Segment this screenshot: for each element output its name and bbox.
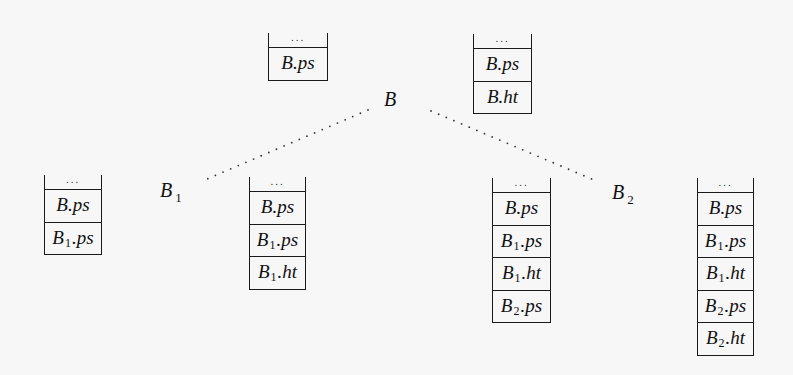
cell-field: .ht xyxy=(278,261,298,282)
edge-b-to-b2 xyxy=(431,111,594,180)
stack-b1-entry: ...B.psB1.ps xyxy=(44,175,102,255)
cell-base: B xyxy=(56,194,68,215)
stack-root-exit: ...B.psB.ht xyxy=(473,34,532,114)
stack-cell: B1.ht xyxy=(492,258,551,291)
cell-base: B xyxy=(705,230,717,251)
cell-field: .ps xyxy=(724,295,746,316)
cell-field: .ht xyxy=(726,327,746,348)
cell-subscript: 1 xyxy=(513,239,519,253)
node-label-b: B xyxy=(384,89,399,117)
cell-subscript: 1 xyxy=(65,236,71,250)
cell-base: B xyxy=(258,261,270,282)
cell-field: .ps xyxy=(68,194,90,215)
stack-b2-entry: ...B.psB1.psB1.htB2.ps xyxy=(492,178,551,323)
stack-cell: B1.ps xyxy=(249,225,306,258)
stack-open-top: ... xyxy=(249,177,306,192)
cell-subscript: 1 xyxy=(271,270,277,284)
cell-base: B xyxy=(706,262,718,283)
cell-base: B xyxy=(706,327,718,348)
stack-cell: B1.ht xyxy=(249,257,306,290)
cell-base: B xyxy=(257,229,269,250)
cell-base: B xyxy=(281,52,293,73)
stack-cell: B2.ht xyxy=(697,323,754,356)
stack-b2-exit: ...B.psB1.psB1.htB2.psB2.ht xyxy=(697,178,754,356)
cell-subscript: 2 xyxy=(719,336,725,350)
node-label-b2: B2 xyxy=(612,182,634,210)
cell-subscript: 2 xyxy=(717,304,723,318)
cell-base: B xyxy=(487,86,499,107)
stack-cell: B1.ps xyxy=(492,226,551,259)
cell-field: .ht xyxy=(726,262,746,283)
stack-root-entry: ...B.ps xyxy=(268,33,328,81)
stack-cell: B2.ps xyxy=(697,291,754,324)
cell-field: .ps xyxy=(520,295,542,316)
cell-field: .ps xyxy=(720,197,742,218)
cell-base: B xyxy=(705,295,717,316)
cell-base: B xyxy=(486,53,498,74)
stack-open-top: ... xyxy=(268,33,328,48)
stack-cell: B1.ps xyxy=(44,223,102,256)
stack-open-top: ... xyxy=(492,178,551,193)
cell-field: .ps xyxy=(497,53,519,74)
cell-base: B xyxy=(501,295,513,316)
cell-base: B xyxy=(505,197,517,218)
stack-cell: B.ps xyxy=(697,193,754,226)
cell-field: .ht xyxy=(522,262,542,283)
stack-cell: B.ps xyxy=(44,190,102,223)
stack-open-top: ... xyxy=(44,175,102,190)
cell-subscript: 1 xyxy=(717,239,723,253)
stack-cell: B.ht xyxy=(473,82,532,115)
cell-subscript: 1 xyxy=(719,271,725,285)
cell-base: B xyxy=(261,196,273,217)
cell-base: B xyxy=(501,230,513,251)
cell-field: .ps xyxy=(516,197,538,218)
stack-b1-exit: ...B.psB1.psB1.ht xyxy=(249,177,306,290)
stack-cell: B1.ht xyxy=(697,258,754,291)
cell-field: .ps xyxy=(276,229,298,250)
cell-field: .ps xyxy=(520,230,542,251)
edge-b-to-b1 xyxy=(207,110,368,179)
cell-base: B xyxy=(709,197,721,218)
edge-layer xyxy=(0,0,793,375)
stack-cell: B.ps xyxy=(268,48,328,81)
node-label-b1: B1 xyxy=(160,180,182,208)
cell-base: B xyxy=(52,227,64,248)
stack-cell: B.ps xyxy=(492,193,551,226)
cell-subscript: 1 xyxy=(269,238,275,252)
cell-base: B xyxy=(502,262,514,283)
cell-field: .ht xyxy=(499,86,519,107)
cell-subscript: 1 xyxy=(515,271,521,285)
stack-cell: B.ps xyxy=(473,49,532,82)
stack-cell: B2.ps xyxy=(492,291,551,324)
cell-subscript: 2 xyxy=(513,304,519,318)
cell-field: .ps xyxy=(724,230,746,251)
cell-field: .ps xyxy=(293,52,315,73)
stack-open-top: ... xyxy=(697,178,754,193)
stack-cell: B.ps xyxy=(249,192,306,225)
cell-field: .ps xyxy=(72,227,94,248)
cell-field: .ps xyxy=(272,196,294,217)
stack-open-top: ... xyxy=(473,34,532,49)
stack-cell: B1.ps xyxy=(697,226,754,259)
